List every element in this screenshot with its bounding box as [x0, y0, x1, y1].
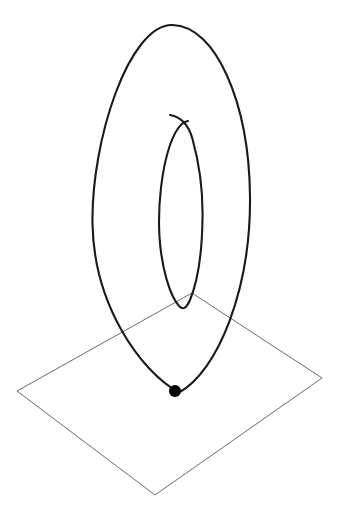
contact-point-marker [169, 385, 181, 397]
figure-svg [0, 0, 340, 513]
figure-canvas [0, 0, 340, 513]
figure-background [0, 0, 340, 513]
